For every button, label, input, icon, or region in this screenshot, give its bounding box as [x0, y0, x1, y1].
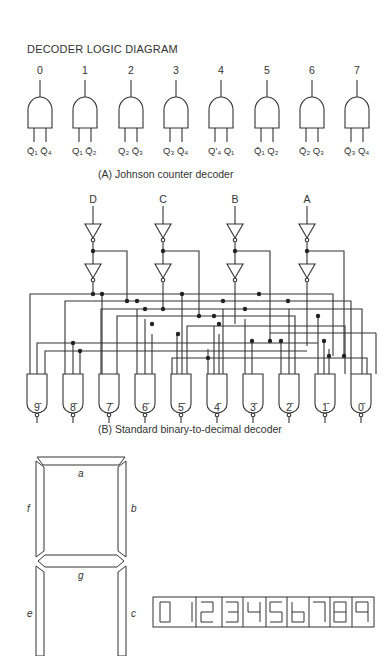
johnson-input-label: Q'₄ Q₁: [208, 145, 234, 156]
inverter-chain-c: [155, 206, 171, 308]
johnson-output-label: 2: [123, 64, 139, 76]
input-label-b: B: [227, 193, 243, 205]
decimal-output-label: 9̄: [29, 401, 45, 413]
segment-label-c: c: [131, 608, 136, 619]
caption-johnson: (A) Johnson counter decoder: [98, 168, 233, 180]
inverter-chains: [85, 206, 315, 346]
johnson-input-label: Q₁ Q̄₂: [72, 145, 96, 156]
johnson-input-label: Q̄₂ Q₃: [299, 145, 324, 156]
decimal-output-label: 6̄: [137, 401, 153, 413]
johnson-gate-6: [300, 80, 324, 142]
johnson-output-label: 0: [32, 64, 48, 76]
input-label-d: D: [85, 193, 101, 205]
digit-display-strip: [153, 597, 374, 627]
input-label-c: C: [155, 193, 171, 205]
johnson-gate-7: [345, 80, 369, 142]
caption-standard: (B) Standard binary-to-decimal decoder: [98, 423, 282, 435]
segment-label-f: f: [27, 503, 30, 514]
segment-label-e: e: [27, 608, 33, 619]
decimal-output-label: 5̄: [173, 401, 189, 413]
johnson-input-label: Q₃ Q̄₄: [163, 145, 188, 156]
johnson-gate-0: [28, 80, 52, 142]
johnson-gate-5: [255, 80, 279, 142]
decimal-output-label: 7̄: [101, 401, 117, 413]
johnson-gate-2: [119, 80, 143, 142]
johnson-output-label: 5: [259, 64, 275, 76]
segment-g: [38, 555, 124, 567]
inverter-chain-a: [299, 206, 315, 346]
decimal-output-label: 2̄: [281, 401, 297, 413]
decimal-output-label: 4̄: [209, 401, 225, 413]
segment-e: [36, 566, 44, 656]
segment-label-g: g: [78, 570, 84, 581]
decimal-output-label: 3̄: [245, 401, 261, 413]
seven-segment-display: [36, 457, 126, 656]
segment-a: [37, 457, 125, 465]
johnson-output-label: 6: [304, 64, 320, 76]
johnson-output-label: 1: [77, 64, 93, 76]
standard-gates: [27, 374, 371, 423]
segment-label-b: b: [131, 503, 137, 514]
segment-label-a: a: [78, 468, 84, 479]
johnson-output-label: 7: [349, 64, 365, 76]
decoder-diagram-canvas: [0, 0, 390, 656]
segment-f: [36, 461, 44, 557]
segment-b: [118, 461, 126, 557]
decimal-output-label: 0̄: [353, 401, 369, 413]
johnson-gate-3: [164, 80, 188, 142]
johnson-gates: [28, 80, 369, 142]
decimal-output-label: 8̄: [65, 401, 81, 413]
gate-drops: [73, 294, 329, 374]
johnson-gate-4: [209, 80, 233, 142]
input-label-a: A: [299, 193, 315, 205]
johnson-output-label: 3: [168, 64, 184, 76]
decimal-output-label: 1̄: [317, 401, 333, 413]
segment-c: [118, 566, 126, 656]
johnson-gate-1: [73, 80, 97, 142]
johnson-input-label: Q̄₁ Q₂: [254, 145, 278, 156]
johnson-input-label: Q₂ Q̄₃: [118, 145, 143, 156]
johnson-output-label: 4: [213, 64, 229, 76]
inverter-chain-b: [227, 206, 243, 324]
johnson-input-label: Q̄₃ Q₄: [344, 145, 369, 156]
johnson-input-label: Q̄₁ Q̄₄: [27, 145, 52, 156]
